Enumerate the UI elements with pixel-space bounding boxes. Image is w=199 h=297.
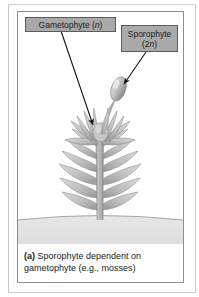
figure-panel: Gametophyte (n) Sporophyte (2n) (a) Spor…	[17, 11, 184, 283]
page-rule-top	[8, 4, 196, 5]
figure-caption: (a) Sporophyte dependent on gametophyte …	[24, 251, 176, 274]
arrow-to-gametophyte	[60, 28, 93, 125]
figure-caption-text: Sporophyte dependent on gametophyte (e.g…	[24, 251, 141, 273]
page-rule-bottom	[8, 292, 196, 293]
page-rule-left	[8, 4, 9, 293]
callout-gametophyte: Gametophyte (n)	[25, 17, 116, 32]
figure-root: Gametophyte (n) Sporophyte (2n) (a) Spor…	[0, 0, 199, 297]
sporophyte-capsule	[108, 75, 129, 103]
figure-panel-label: (a)	[24, 251, 35, 261]
callout-sporophyte-line1: Sporophyte	[126, 29, 173, 39]
callout-sporophyte: Sporophyte (2n)	[121, 25, 178, 52]
page-rule-right	[195, 4, 196, 293]
gametophyte-rosette	[65, 108, 135, 145]
arrow-to-sporophyte	[124, 52, 146, 84]
callout-gametophyte-label: Gametophyte (n)	[39, 20, 103, 30]
callout-sporophyte-line2: (2n)	[126, 39, 173, 49]
